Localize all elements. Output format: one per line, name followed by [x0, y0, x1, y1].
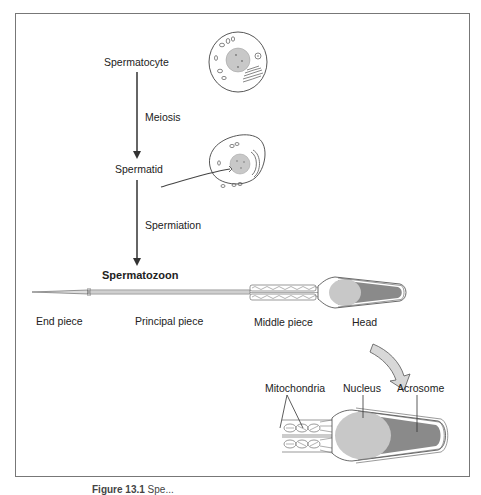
label-meiosis: Meiosis	[145, 111, 181, 123]
caption-label: Figure 13.1	[92, 484, 145, 495]
label-end-piece: End piece	[36, 315, 83, 327]
spermatid-cell-icon	[161, 135, 265, 188]
label-spermatid: Spermatid	[115, 163, 163, 175]
label-head: Head	[352, 316, 377, 328]
label-nucleus: Nucleus	[343, 382, 381, 394]
meiosis-arrow	[133, 72, 141, 159]
spermatocyte-cell-icon	[209, 32, 267, 92]
head-detail-icon	[280, 395, 448, 463]
caption-text: Spe...	[148, 484, 174, 495]
label-spermatocyte: Spermatocyte	[104, 56, 169, 68]
label-middle-piece: Middle piece	[254, 316, 313, 328]
spermiation-arrow	[133, 180, 141, 266]
label-spermiation: Spermiation	[145, 219, 201, 231]
label-spermatozoon: Spermatozoon	[102, 269, 178, 281]
figure-caption: Figure 13.1 Spe...	[92, 484, 174, 495]
label-mitochondria: Mitochondria	[265, 382, 325, 394]
label-principal-piece: Principal piece	[135, 315, 203, 327]
label-acrosome: Acrosome	[397, 382, 444, 394]
spermatozoon-icon	[32, 277, 406, 308]
